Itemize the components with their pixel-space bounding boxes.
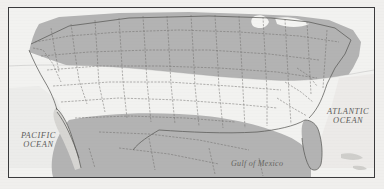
- us-map-graphic: [9, 8, 374, 177]
- map-figure: PACIFIC OCEAN ATLANTIC OCEAN Gulf of Mex…: [0, 0, 384, 189]
- map-frame: PACIFIC OCEAN ATLANTIC OCEAN Gulf of Mex…: [8, 7, 375, 178]
